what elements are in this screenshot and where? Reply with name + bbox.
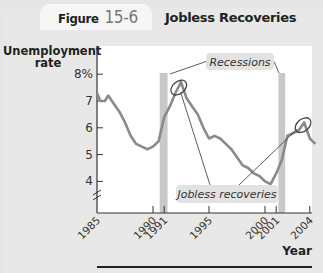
recessions-leader-line [170,62,206,75]
y-tick-label: 4 [85,174,93,188]
recession-bar-1 [160,73,168,213]
jobless-callout-text: Jobless recoveries [175,188,276,201]
y-tick-label: 8% [74,67,93,81]
recession-bar-2 [278,73,285,213]
y-tick-label: 6 [85,121,93,135]
y-tick-label: 5 [85,148,93,162]
recessions-callout-text: Recessions [209,56,270,69]
jobless-leader-line [181,93,210,185]
x-tick-label: 1985 [75,214,102,241]
recessions-leader-line [274,62,279,74]
y-tick-label: 7 [85,94,93,108]
x-tick-label: 1995 [187,214,214,241]
jobless-leader-line [239,129,297,185]
x-tick-label: 2004 [288,214,316,242]
line-chart: 8%76541985199019911995200020012004Recess… [0,0,323,273]
bottom-rule [97,266,312,268]
